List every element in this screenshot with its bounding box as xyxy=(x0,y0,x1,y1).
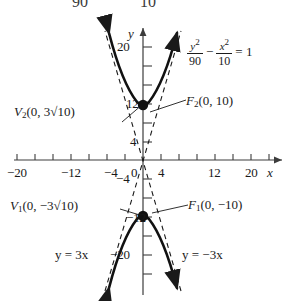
equation-numerator-1: y2 xyxy=(188,38,201,53)
x-tick-label-12: 12 xyxy=(208,166,221,179)
point-label-v2: V2(0, 3√10) xyxy=(14,105,75,120)
point-label-f1: F1(0, −10) xyxy=(188,198,242,213)
x-tick-label-minus20: −20 xyxy=(7,166,27,179)
point-label-f2: F2(0, 10) xyxy=(186,94,233,109)
y-tick-label-12: 12 xyxy=(126,97,139,110)
y-tick-label-20: 20 xyxy=(117,40,130,53)
vertex-focus-dot-upper xyxy=(138,100,148,110)
equation-numerator-2: x2 xyxy=(218,38,231,53)
fraction-x-squared-over-10: x2 10 xyxy=(216,38,232,67)
x-tick-label-0: 0 xyxy=(131,166,137,179)
equation-operator: − xyxy=(206,44,213,60)
hyperbola-figure: 90 10 xyxy=(0,0,294,301)
leader-f2 xyxy=(150,100,186,112)
asymptote-label-left: y = 3x xyxy=(55,248,88,261)
point-label-f2-prefix: F xyxy=(186,93,194,108)
point-label-v2-body: (0, 3√10) xyxy=(26,104,74,119)
y-tick-label-4: 4 xyxy=(130,135,136,148)
asymptote-label-right: y = −3x xyxy=(182,248,223,261)
equation-denominator-2: 10 xyxy=(216,53,232,67)
y-tick-label-minus12: −12 xyxy=(126,211,146,224)
y-axis xyxy=(143,28,152,295)
equation-denominator-1: 90 xyxy=(187,53,203,67)
y-tick-label-minus4: −4 xyxy=(116,172,129,185)
point-label-v1-body: (0, −3√10) xyxy=(22,198,78,213)
x-axis xyxy=(14,154,282,160)
point-label-v1: V1(0, −3√10) xyxy=(10,199,78,214)
x-axis-label: x xyxy=(267,166,273,179)
point-label-v2-prefix: V xyxy=(14,104,22,119)
fraction-y-squared-over-90: y2 90 xyxy=(187,38,203,67)
point-label-f1-body: (0, −10) xyxy=(200,197,242,212)
x-tick-label-20: 20 xyxy=(245,166,258,179)
point-label-f1-prefix: F xyxy=(188,197,196,212)
y-tick-label-minus20: −20 xyxy=(110,248,130,261)
point-label-v1-prefix: V xyxy=(10,198,18,213)
point-label-f2-body: (0, 10) xyxy=(198,93,233,108)
equation-equals: = 1 xyxy=(235,44,252,60)
x-tick-label-minus12: −12 xyxy=(61,166,81,179)
equation-label: y2 90 − x2 10 = 1 xyxy=(186,38,254,67)
x-tick-label-4: 4 xyxy=(158,166,164,179)
